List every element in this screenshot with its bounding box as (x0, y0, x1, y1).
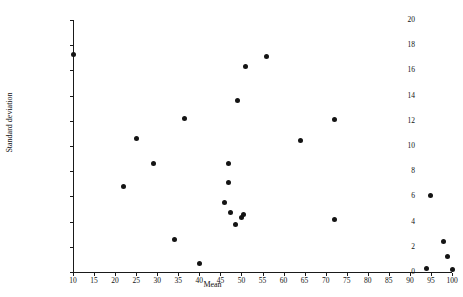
x-tick-label: 100 (440, 277, 463, 285)
data-point (441, 239, 446, 244)
data-point (243, 64, 248, 69)
data-point (241, 212, 246, 217)
y-tick-mark (70, 121, 73, 122)
y-tick-label: 0 (389, 268, 415, 276)
y-tick-label: 10 (389, 142, 415, 150)
y-tick-label: 8 (389, 167, 415, 175)
data-point (71, 52, 76, 57)
data-point (134, 136, 139, 141)
data-point (228, 210, 233, 215)
data-point (121, 184, 126, 189)
data-point (226, 180, 231, 185)
y-tick-mark (70, 146, 73, 147)
y-axis-line (73, 20, 74, 273)
y-tick-label: 12 (389, 117, 415, 125)
data-point (235, 98, 240, 103)
y-axis-title: Standard deviation (5, 58, 14, 188)
data-point (151, 161, 156, 166)
y-tick-mark (70, 70, 73, 71)
y-tick-mark (70, 222, 73, 223)
y-tick-label: 20 (389, 16, 415, 24)
data-point (222, 200, 227, 205)
y-tick-mark (70, 171, 73, 172)
data-point (332, 117, 337, 122)
data-point (226, 161, 231, 166)
y-tick-mark (70, 20, 73, 21)
data-point (332, 217, 337, 222)
y-tick-label: 6 (389, 192, 415, 200)
y-tick-label: 16 (389, 66, 415, 74)
data-point (197, 261, 202, 266)
plot-area: 02468101214161820 1015202530354045505560… (37, 10, 415, 262)
y-tick-label: 2 (389, 243, 415, 251)
data-point (445, 254, 450, 259)
x-axis-title: Mean (0, 280, 425, 289)
data-point (450, 267, 455, 272)
y-tick-mark (70, 196, 73, 197)
y-tick-label: 4 (389, 218, 415, 226)
y-tick-mark (70, 247, 73, 248)
data-point (428, 193, 433, 198)
y-tick-mark (70, 96, 73, 97)
y-tick-mark (70, 45, 73, 46)
data-point (172, 237, 177, 242)
y-tick-label: 14 (389, 92, 415, 100)
y-tick-label: 18 (389, 41, 415, 49)
data-point (298, 138, 303, 143)
data-point (424, 266, 429, 271)
data-point (182, 116, 187, 121)
data-point (264, 54, 269, 59)
data-point (233, 222, 238, 227)
